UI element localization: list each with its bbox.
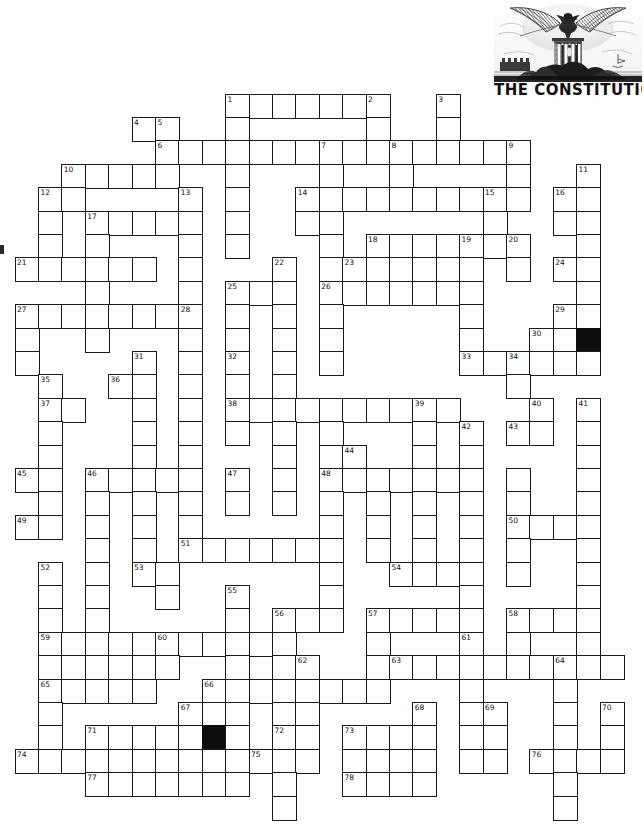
grid-cell[interactable] (225, 679, 250, 704)
grid-cell[interactable] (412, 772, 437, 797)
grid-cell[interactable] (272, 351, 297, 376)
grid-cell[interactable] (38, 725, 63, 750)
grid-cell[interactable] (85, 491, 110, 516)
grid-cell[interactable] (225, 632, 250, 657)
grid-cell[interactable] (553, 679, 578, 704)
grid-cell[interactable] (155, 562, 180, 587)
grid-cell[interactable] (576, 445, 601, 470)
grid-cell[interactable] (249, 632, 274, 657)
grid-cell[interactable]: 10 (61, 164, 86, 189)
grid-cell[interactable] (202, 538, 227, 563)
grid-cell[interactable] (506, 374, 531, 399)
grid-cell[interactable] (412, 257, 437, 282)
grid-cell[interactable] (529, 351, 554, 376)
grid-cell[interactable] (178, 491, 203, 516)
grid-cell[interactable] (436, 187, 461, 212)
grid-cell[interactable] (108, 749, 133, 774)
grid-cell[interactable] (576, 257, 601, 282)
grid-cell[interactable] (342, 679, 367, 704)
grid-cell[interactable] (132, 164, 157, 189)
grid-cell[interactable]: 35 (38, 374, 63, 399)
grid-cell[interactable] (319, 445, 344, 470)
grid-cell[interactable] (202, 632, 227, 657)
grid-cell[interactable] (576, 538, 601, 563)
grid-cell[interactable]: 26 (319, 281, 344, 306)
grid-cell[interactable] (38, 304, 63, 329)
grid-cell[interactable] (506, 257, 531, 282)
grid-cell[interactable]: 9 (506, 140, 531, 165)
grid-cell[interactable] (38, 515, 63, 540)
grid-cell[interactable] (295, 702, 320, 727)
grid-cell[interactable] (506, 491, 531, 516)
grid-cell[interactable]: 18 (366, 234, 391, 259)
grid-cell[interactable] (506, 655, 531, 680)
grid-cell[interactable] (412, 468, 437, 493)
grid-cell[interactable] (108, 679, 133, 704)
grid-cell[interactable] (38, 655, 63, 680)
grid-cell[interactable] (249, 679, 274, 704)
grid-cell[interactable] (412, 281, 437, 306)
grid-cell[interactable] (61, 257, 86, 282)
grid-cell[interactable] (155, 468, 180, 493)
grid-cell[interactable] (155, 164, 180, 189)
grid-cell[interactable]: 15 (483, 187, 508, 212)
grid-cell[interactable] (132, 374, 157, 399)
grid-cell[interactable]: 6 (155, 140, 180, 165)
grid-cell[interactable]: 75 (249, 749, 274, 774)
grid-cell[interactable] (529, 515, 554, 540)
grid-cell[interactable] (553, 515, 578, 540)
grid-cell[interactable] (576, 234, 601, 259)
grid-cell[interactable] (108, 725, 133, 750)
grid-cell[interactable] (506, 187, 531, 212)
grid-cell[interactable] (506, 164, 531, 189)
grid-cell[interactable]: 7 (319, 140, 344, 165)
grid-cell[interactable] (61, 398, 86, 423)
grid-cell[interactable] (225, 702, 250, 727)
grid-cell[interactable] (412, 140, 437, 165)
grid-cell[interactable] (272, 749, 297, 774)
grid-cell[interactable] (132, 398, 157, 423)
grid-cell[interactable] (295, 140, 320, 165)
grid-cell[interactable] (459, 304, 484, 329)
grid-cell[interactable] (436, 281, 461, 306)
grid-cell[interactable] (178, 351, 203, 376)
grid-cell[interactable] (366, 772, 391, 797)
grid-cell[interactable] (295, 679, 320, 704)
grid-cell[interactable] (178, 632, 203, 657)
grid-cell[interactable] (319, 211, 344, 236)
grid-cell[interactable] (319, 679, 344, 704)
grid-cell[interactable]: 24 (553, 257, 578, 282)
grid-cell[interactable] (436, 608, 461, 633)
grid-cell[interactable] (366, 515, 391, 540)
grid-cell[interactable] (529, 421, 554, 446)
grid-cell[interactable]: 59 (38, 632, 63, 657)
grid-cell[interactable] (132, 632, 157, 657)
grid-cell[interactable] (553, 351, 578, 376)
grid-cell[interactable] (155, 304, 180, 329)
grid-cell[interactable] (272, 304, 297, 329)
grid-cell[interactable] (389, 257, 414, 282)
grid-cell[interactable] (202, 749, 227, 774)
grid-cell[interactable] (366, 655, 391, 680)
grid-cell[interactable] (132, 538, 157, 563)
grid-cell[interactable] (553, 608, 578, 633)
grid-cell[interactable] (225, 117, 250, 142)
grid-cell[interactable] (61, 304, 86, 329)
grid-cell[interactable] (272, 538, 297, 563)
grid-cell[interactable] (389, 187, 414, 212)
grid-cell[interactable] (272, 468, 297, 493)
grid-cell[interactable]: 12 (38, 187, 63, 212)
grid-cell[interactable] (342, 398, 367, 423)
grid-cell[interactable] (85, 608, 110, 633)
grid-cell[interactable] (272, 491, 297, 516)
grid-cell[interactable] (225, 421, 250, 446)
grid-cell[interactable] (459, 725, 484, 750)
grid-cell[interactable] (85, 749, 110, 774)
grid-cell[interactable] (61, 655, 86, 680)
grid-cell[interactable] (178, 445, 203, 470)
grid-cell[interactable] (225, 328, 250, 353)
crossword-grid[interactable]: 1234567891011121314151617181920212223242… (0, 0, 644, 837)
grid-cell[interactable]: 53 (132, 562, 157, 587)
grid-cell[interactable]: 62 (295, 655, 320, 680)
grid-cell[interactable]: 39 (412, 398, 437, 423)
